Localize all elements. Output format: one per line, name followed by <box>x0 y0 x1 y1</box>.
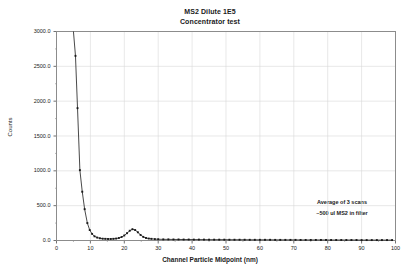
axis-ticks <box>54 32 396 244</box>
chart-figure: MS2 Dilute 1E5 Concentrator test Counts … <box>0 0 420 277</box>
plot-area <box>0 0 420 277</box>
grid-lines <box>57 32 396 241</box>
